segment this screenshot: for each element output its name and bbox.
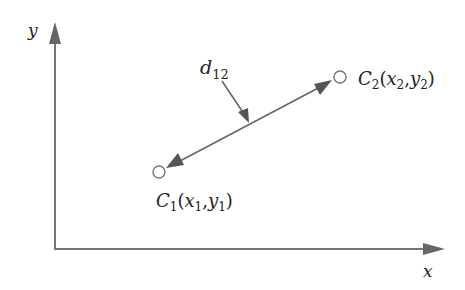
point-c2 [334, 71, 346, 83]
x-axis-label: x [423, 261, 433, 281]
distance-diagram: y x d12 C2(x2,y2) C1(x1,y1) [0, 0, 465, 290]
d12-label: d12 [200, 56, 229, 82]
d12-pointer-arrowhead [238, 108, 249, 123]
d12-sub: 12 [212, 67, 229, 82]
distance-arrowhead-c1 [166, 153, 184, 168]
distance-line [180, 86, 322, 161]
c2-label: C2(x2,y2) [358, 68, 435, 92]
y-axis-arrowhead [49, 22, 61, 44]
distance-arrowhead-c2 [314, 80, 332, 95]
d12-name: d [200, 56, 212, 78]
point-c1 [153, 166, 165, 178]
y-axis-label: y [27, 20, 38, 40]
x-axis-arrowhead [423, 243, 445, 255]
d12-pointer-line [222, 81, 244, 114]
c1-label: C1(x1,y1) [156, 190, 233, 214]
